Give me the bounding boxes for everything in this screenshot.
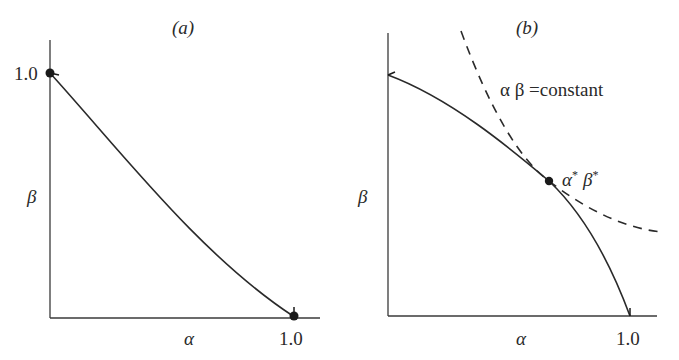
tangent-beta: β [582, 169, 593, 190]
panel-b-x-axis-label: α [516, 328, 527, 349]
panel-a-x-tick-label: 1.0 [279, 328, 303, 349]
panel-a-y-tick-label: 1.0 [14, 63, 38, 84]
panel-a-tradeoff-curve [50, 73, 293, 316]
panel-a-x-axis-label: α [184, 328, 195, 349]
panel-b-label: (b) [516, 17, 538, 39]
panel-b: (b) α β =constant α*β* β α 1.0 [357, 17, 662, 349]
panel-b-tradeoff-curve [388, 75, 630, 316]
panel-a-label: (a) [172, 17, 194, 39]
panel-a: (a) 1.0 β α 1.0 [14, 17, 320, 349]
figure-canvas: (a) 1.0 β α 1.0 (b) [0, 0, 679, 360]
panel-b-constant-product-dashed-curve [461, 31, 662, 232]
figure: (a) 1.0 β α 1.0 (b) [0, 0, 679, 360]
panel-b-tangent-point-dot [545, 177, 553, 185]
panel-a-y-axis-label: β [26, 186, 37, 207]
panel-b-constant-label: α β =constant [500, 79, 604, 100]
panel-b-x-tick-label: 1.0 [616, 328, 640, 349]
tangent-beta-star: * [592, 168, 598, 182]
panel-b-y-axis-label: β [357, 186, 368, 207]
panel-b-tangent-point-label: α*β* [562, 168, 598, 190]
panel-b-start-tick [388, 72, 395, 75]
tangent-alpha-star: * [572, 168, 578, 182]
